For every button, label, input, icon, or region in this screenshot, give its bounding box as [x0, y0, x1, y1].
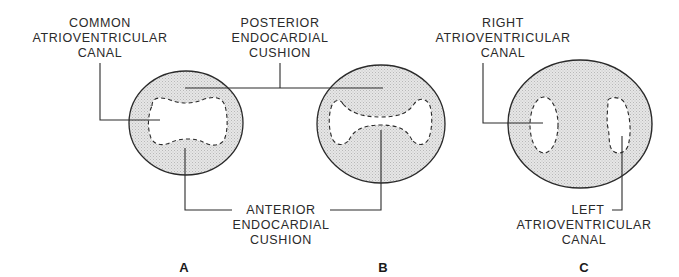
panel-a — [129, 71, 243, 175]
label-left-av-canal: LEFT ATRIOVENTRICULAR CANAL — [516, 203, 651, 247]
label-line: ATRIOVENTRICULAR — [516, 218, 651, 232]
heart-outline-c — [508, 60, 652, 188]
label-line: CANAL — [78, 46, 123, 60]
label-line: POSTERIOR — [240, 16, 319, 30]
label-line: ANTERIOR — [246, 203, 315, 217]
label-common-av-canal: COMMON ATRIOVENTRICULAR CANAL — [32, 16, 167, 60]
label-line: CANAL — [562, 233, 607, 247]
label-line: ATRIOVENTRICULAR — [435, 31, 570, 45]
label-line: CUSHION — [250, 233, 312, 247]
panel-c — [508, 60, 652, 188]
label-line: CANAL — [481, 46, 526, 60]
label-line: ENDOCARDIAL — [232, 31, 329, 45]
panel-label-c: C — [579, 260, 589, 275]
label-line: CUSHION — [249, 46, 311, 60]
label-right-av-canal: RIGHT ATRIOVENTRICULAR CANAL — [435, 16, 570, 60]
label-posterior-cushion: POSTERIOR ENDOCARDIAL CUSHION — [232, 16, 329, 60]
label-line: LEFT — [572, 203, 605, 217]
panel-label-a: A — [179, 260, 189, 275]
right-av-canal-opening — [530, 97, 558, 153]
label-line: RIGHT — [482, 16, 524, 30]
common-canal-opening — [148, 98, 227, 146]
label-line: ENDOCARDIAL — [233, 218, 330, 232]
label-line: COMMON — [69, 16, 131, 30]
panel-label-b: B — [378, 260, 387, 275]
endocardial-cushion-diagram: COMMON ATRIOVENTRICULAR CANAL POSTERIOR … — [0, 0, 679, 277]
label-line: ATRIOVENTRICULAR — [32, 31, 167, 45]
label-anterior-cushion: ANTERIOR ENDOCARDIAL CUSHION — [233, 203, 330, 247]
